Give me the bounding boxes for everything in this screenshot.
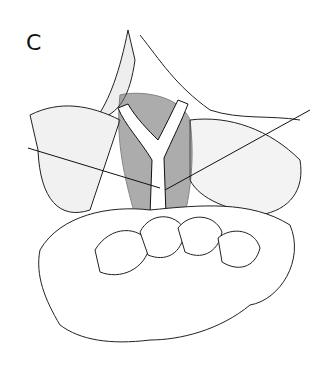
surgical-illustration xyxy=(0,0,328,379)
left-tissue xyxy=(30,106,120,213)
